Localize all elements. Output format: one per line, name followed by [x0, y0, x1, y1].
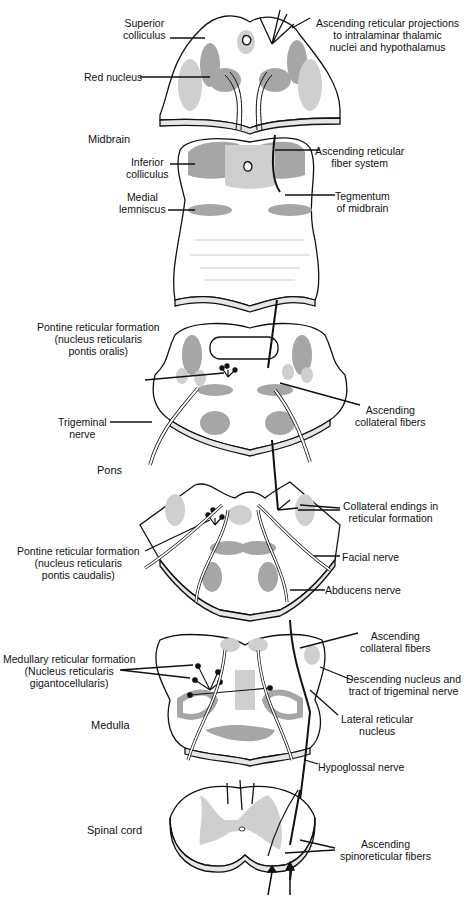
label-hypoglossal-nerve: Hypoglossal nerve [318, 761, 404, 773]
label-lateral-reticular-nucleus: Lateral reticular nucleus [341, 713, 413, 737]
label-ascending-reticular-fiber-system: Ascending reticular fiber system [315, 145, 404, 169]
label-facial-nerve: Facial nerve [342, 551, 399, 563]
label-ascending-collateral-fibers-pons: Ascending collateral fibers [355, 404, 426, 428]
label-ascending-collateral-fibers-medulla: Ascending collateral fibers [360, 630, 431, 654]
pons-lower-section [140, 440, 340, 621]
section-label-pons: Pons [97, 464, 122, 476]
inferior-midbrain-section [168, 135, 335, 312]
superior-midbrain-section [140, 10, 340, 134]
label-descending-nucleus-trigeminal: Descending nucleus and tract of trigemin… [346, 673, 461, 697]
label-medullary-rf: Medullary reticular formation (Nucleus r… [3, 653, 135, 689]
label-superior-colliculus: Superior colliculus [123, 17, 166, 41]
label-inferior-colliculus: Inferior colliculus [126, 156, 169, 180]
section-label-midbrain: Midbrain [88, 133, 130, 145]
label-pontine-rf-oralis: Pontine reticular formation (nucleus ret… [37, 321, 160, 357]
label-red-nucleus: Red nucleus [84, 71, 142, 83]
label-tegmentum-of-midbrain: Tegmentum of midbrain [335, 190, 390, 214]
spinal-cord-section [170, 780, 335, 895]
label-ascending-spinoreticular: Ascending spinoreticular fibers [340, 838, 431, 862]
brainstem-diagram [0, 0, 470, 913]
label-collateral-endings: Collateral endings in reticular formatio… [343, 500, 438, 524]
label-pontine-rf-caudalis: Pontine reticular formation (nucleus ret… [17, 545, 140, 581]
label-trigeminal-nerve: Trigeminal nerve [58, 416, 107, 440]
label-medial-lemniscus: Medial lemniscus [119, 191, 166, 215]
label-abducens-nerve: Abducens nerve [325, 584, 401, 596]
section-label-medulla: Medulla [91, 719, 130, 731]
label-ascending-reticular-projections: Ascending reticular projections to intra… [316, 17, 459, 53]
section-label-spinal-cord: Spinal cord [87, 824, 142, 836]
